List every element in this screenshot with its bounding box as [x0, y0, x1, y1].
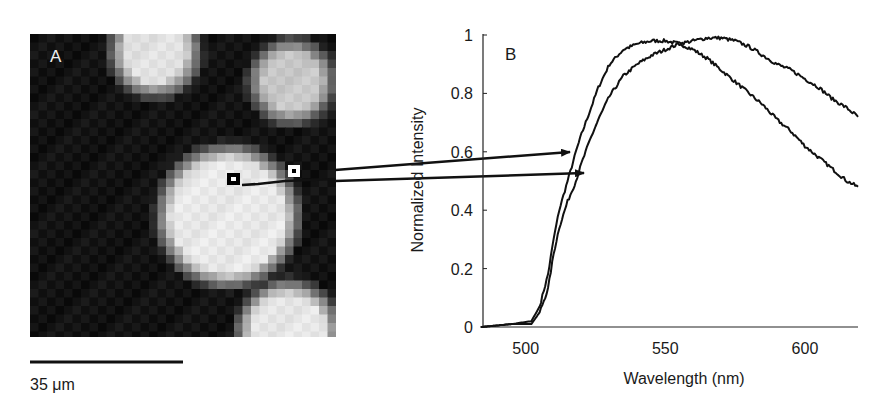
- x-ticks: 500550600: [512, 340, 818, 357]
- x-tick-label: 550: [652, 340, 679, 357]
- y-axis-label: Normalized Intensity: [409, 108, 426, 253]
- scale-bar-label: 35 μm: [30, 376, 75, 393]
- panel-b-chart: 00.20.40.60.81 500550600 B Normalized In…: [409, 27, 858, 387]
- y-tick-label: 0.8: [451, 85, 473, 102]
- figure: A 35 μm 00.20.40.60.81 500550600 B Norma…: [0, 0, 891, 412]
- panel-b-label: B: [505, 45, 516, 64]
- y-tick-label: 0.4: [451, 202, 473, 219]
- spectrum-1-line: [481, 39, 858, 327]
- y-tick-label: 0.6: [451, 144, 473, 161]
- panel-a-label: A: [50, 47, 62, 66]
- y-tick-label: 1: [464, 27, 473, 44]
- micrograph-image: [30, 34, 336, 337]
- arrow-lower: [335, 173, 584, 181]
- x-axis-label: Wavelength (nm): [623, 370, 744, 387]
- y-tick-label: 0.2: [451, 261, 473, 278]
- x-tick-label: 600: [792, 340, 819, 357]
- y-tick-label: 0: [464, 319, 473, 336]
- inner-marker: [227, 173, 240, 185]
- spectra-series: [481, 37, 858, 328]
- x-tick-label: 500: [512, 340, 539, 357]
- outer-marker: [288, 165, 300, 177]
- y-ticks: 00.20.40.60.81: [451, 27, 487, 336]
- panel-a: A 35 μm: [30, 34, 336, 393]
- spectrum-2-line: [481, 37, 858, 328]
